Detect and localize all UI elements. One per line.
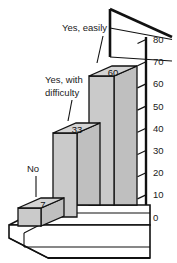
bar-1-side-face (77, 123, 100, 205)
category-label-yes-easily: Yes, easily (62, 22, 107, 33)
y-tick-label-70: 70 (153, 56, 164, 67)
y-tick-label-40: 40 (153, 123, 164, 134)
bar-0-value-label: 7 (40, 199, 45, 210)
y-tick-label-20: 20 (153, 167, 164, 178)
bar-2-side-face (114, 66, 137, 205)
bar-1-value-label: 33 (72, 124, 83, 135)
category-label-no: No (27, 163, 39, 174)
y-tick-label-10: 10 (153, 189, 164, 200)
bar-2-value-label: 60 (108, 67, 119, 78)
y-tick-label-60: 60 (153, 78, 164, 89)
bar-chart-3d: 80 70 60 50 40 30 20 10 0 (0, 0, 177, 263)
y-tick-label-80: 80 (153, 34, 164, 45)
category-label-yes-with-difficulty-line2: difficulty (45, 87, 79, 98)
y-tick-label-30: 30 (153, 145, 164, 156)
y-tick-label-50: 50 (153, 101, 164, 112)
y-tick-label-0: 0 (153, 212, 158, 223)
bar-0-front-face (18, 208, 41, 226)
category-label-yes-with-difficulty-line1: Yes, with (45, 74, 83, 85)
